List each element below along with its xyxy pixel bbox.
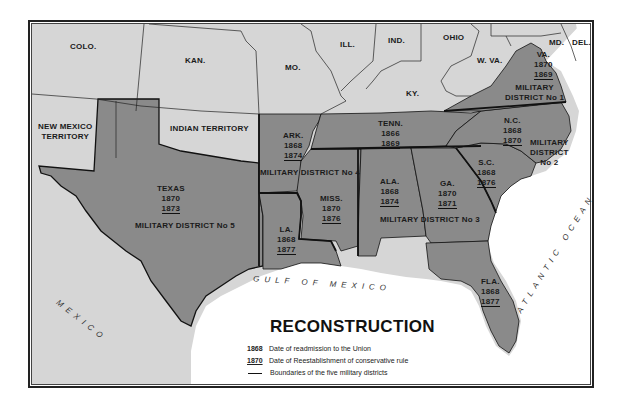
legend-label-conservative: Date of Reestablishment of conservative … xyxy=(269,355,408,367)
label-indiana: IND. xyxy=(388,36,405,46)
label-military-district-3: MILITARY DISTRICT No 3 xyxy=(380,215,480,225)
legend-readmission: 1868 Date of readmission to the Union xyxy=(247,343,408,355)
label-tennessee: TENN. 1866 1869 xyxy=(378,119,403,149)
label-arkansas: ARK. 1868 1874 xyxy=(283,131,303,161)
map-legend: 1868 Date of readmission to the Union 18… xyxy=(247,343,408,379)
label-louisiana: LA. 1868 1877 xyxy=(277,225,296,255)
label-georgia: GA. 1870 1871 xyxy=(438,179,457,209)
label-colorado: COLO. xyxy=(70,42,96,52)
label-new-mexico: NEW MEXICO TERRITORY xyxy=(38,122,92,142)
boundary-line-icon xyxy=(248,373,262,374)
label-military-district-2: MILITARY DISTRICT No 2 xyxy=(530,138,569,168)
legend-key-conservative: 1870 xyxy=(247,355,265,367)
label-military-district-5: MILITARY DISTRICT No 5 xyxy=(135,221,235,231)
label-mississippi: MISS. 1870 1876 xyxy=(320,194,343,224)
label-virginia: VA. 1870 1869 xyxy=(534,50,553,80)
legend-conservative: 1870 Date of Reestablishment of conserva… xyxy=(247,355,408,367)
legend-label-readmission: Date of readmission to the Union xyxy=(269,343,371,355)
label-delaware: DEL. xyxy=(572,38,591,48)
label-missouri: MO. xyxy=(285,63,301,73)
map-title: RECONSTRUCTION xyxy=(270,317,435,337)
label-kansas: KAN. xyxy=(185,56,205,66)
label-texas: TEXAS 1870 1873 xyxy=(157,184,185,214)
label-alabama: ALA. 1868 1874 xyxy=(380,177,399,207)
label-military-district-1: MILITARY DISTRICT No 1 xyxy=(505,83,564,103)
label-military-district-4: MILITARY DISTRICT No 4 xyxy=(260,168,360,178)
legend-label-boundary: Boundaries of the five military district… xyxy=(270,367,388,379)
label-illinois: ILL. xyxy=(340,40,355,50)
legend-boundary: Boundaries of the five military district… xyxy=(247,367,408,379)
label-maryland: MD. xyxy=(549,38,564,48)
label-north-carolina: N.C. 1868 1870 xyxy=(503,116,522,146)
label-indian-territory: INDIAN TERRITORY xyxy=(170,124,249,134)
label-ohio: OHIO xyxy=(443,33,464,43)
label-west-virginia: W. VA. xyxy=(477,56,503,66)
legend-key-readmission: 1868 xyxy=(247,343,265,355)
label-florida: FLA. 1868 1877 xyxy=(481,277,500,307)
label-kentucky: KY. xyxy=(406,89,419,99)
label-south-carolina: S.C. 1868 1876 xyxy=(477,158,496,188)
